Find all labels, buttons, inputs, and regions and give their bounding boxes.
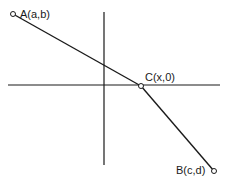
point-a-marker (11, 12, 16, 17)
point-b-marker (212, 169, 217, 174)
segment-c-b (141, 86, 214, 171)
segment-a-c (13, 14, 141, 86)
point-c-marker (139, 84, 144, 89)
point-a-label: A(a,b) (20, 8, 50, 20)
point-c-label: C(x,0) (145, 71, 175, 83)
coordinate-diagram: A(a,b) C(x,0) B(c,d) (0, 0, 225, 178)
point-b-label: B(c,d) (176, 164, 205, 176)
